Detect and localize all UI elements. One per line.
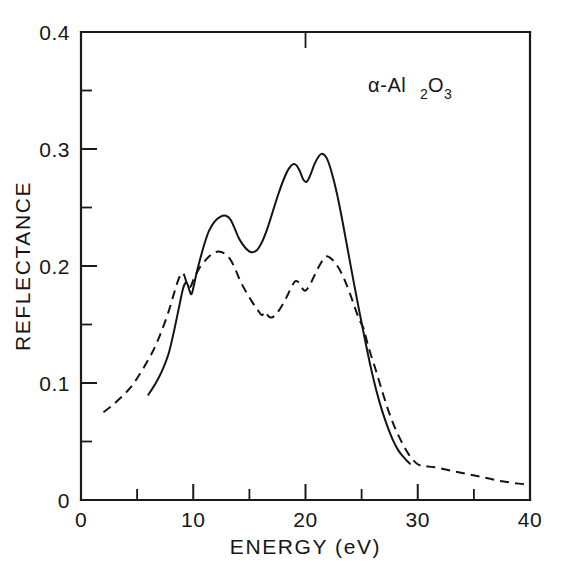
annotation-sub-3: 3: [444, 86, 452, 102]
x-axis-minor-ticks: [137, 32, 474, 500]
x-tick-label-40: 40: [518, 508, 542, 531]
annotation-oxygen: O: [428, 74, 444, 96]
y-tick-label-0: 0: [58, 489, 70, 512]
x-tick-label-30: 30: [406, 508, 430, 531]
y-axis-title: REFLECTANCE: [11, 181, 34, 351]
annotation-alpha-al: α-Al: [368, 74, 406, 96]
plot-frame: [81, 32, 530, 500]
y-tick-labels: 0 0.1 0.2 0.3 0.4: [39, 21, 70, 512]
y-tick-label-0-4: 0.4: [39, 21, 70, 44]
dashed-curve-path: [103, 252, 530, 485]
reflectance-figure: 0 0.1 0.2 0.3 0.4 0 10 20 30 40 ENERGY (…: [0, 0, 574, 575]
x-axis-title: ENERGY (eV): [230, 535, 381, 558]
formula-annotation: α-Al 2 O 3: [368, 74, 452, 102]
data-curves: [103, 154, 530, 485]
y-tick-label-0-1: 0.1: [39, 372, 70, 395]
x-tick-labels: 0 10 20 30 40: [75, 508, 542, 531]
x-tick-label-20: 20: [293, 508, 317, 531]
chart-canvas: 0 0.1 0.2 0.3 0.4 0 10 20 30 40 ENERGY (…: [0, 0, 574, 575]
y-axis-major-ticks: [81, 32, 97, 500]
y-tick-label-0-2: 0.2: [39, 255, 70, 278]
x-axis-major-ticks: [81, 484, 530, 500]
x-tick-label-10: 10: [181, 508, 205, 531]
y-tick-label-0-3: 0.3: [39, 138, 70, 161]
x-tick-label-0: 0: [75, 508, 87, 531]
